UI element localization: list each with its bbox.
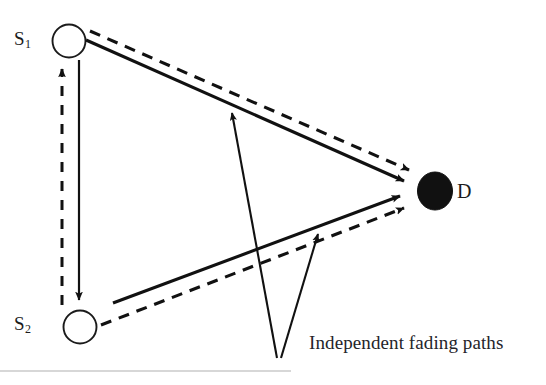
node-label-d: D	[457, 181, 471, 201]
node-s1-circle	[53, 25, 86, 58]
node-d-circle	[418, 172, 453, 210]
figure-canvas: S1 S2 D Independent fading paths	[0, 0, 546, 385]
edge-s1-to-d-dashed	[90, 31, 409, 170]
node-label-s2-subscript: 2	[25, 322, 32, 336]
edge-s1-to-d-solid	[86, 40, 404, 181]
node-label-d-letter: D	[457, 180, 471, 202]
node-label-s2: S2	[14, 314, 31, 335]
node-label-s2-letter: S	[14, 313, 25, 334]
annotation-pointer-upper	[232, 113, 277, 358]
node-s2-circle	[64, 311, 97, 344]
node-label-s1: S1	[14, 29, 31, 50]
node-label-s1-letter: S	[14, 28, 25, 49]
annotation-label: Independent fading paths	[309, 333, 503, 352]
node-label-s1-subscript: 1	[25, 37, 32, 51]
